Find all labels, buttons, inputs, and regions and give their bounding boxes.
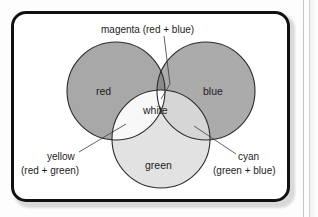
figure-card: red blue green white magenta (red + blue…: [11, 11, 290, 202]
callout-magenta: magenta (red + blue): [101, 24, 194, 35]
label-white: white: [142, 104, 168, 116]
venn-diagram: red blue green white magenta (red + blue…: [14, 14, 290, 202]
scan-edge-fade: [310, 0, 318, 217]
label-red: red: [96, 85, 111, 97]
callout-cyan-line1: cyan: [238, 151, 259, 162]
scan-artifact-line-left: [303, 0, 304, 217]
callout-cyan-line2: (green + blue): [213, 165, 276, 176]
callout-yellow-line2: (red + green): [21, 165, 79, 176]
callout-yellow-line1: yellow: [47, 151, 76, 162]
label-blue: blue: [203, 85, 223, 97]
label-green: green: [145, 159, 172, 171]
